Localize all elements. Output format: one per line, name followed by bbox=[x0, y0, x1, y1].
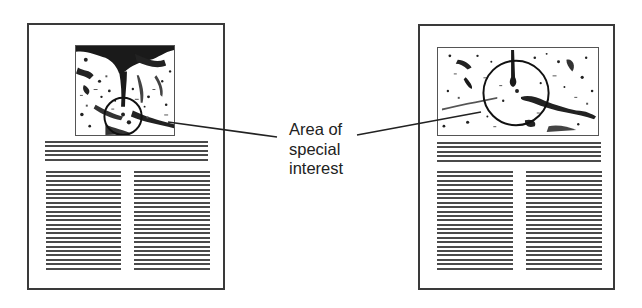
right-page-column-2 bbox=[526, 171, 602, 272]
right-page-photo bbox=[437, 47, 599, 136]
callout-label-line-1: Area of bbox=[289, 120, 343, 140]
micrograph-texture bbox=[76, 46, 174, 135]
left-page-column-1 bbox=[46, 171, 121, 272]
callout-label: Area of special interest bbox=[289, 120, 343, 179]
callout-label-line-2: special bbox=[289, 140, 343, 160]
left-page-photo bbox=[75, 45, 175, 136]
left-page-column-2 bbox=[134, 171, 210, 272]
left-page-headline-rules bbox=[45, 141, 208, 163]
callout-label-line-3: interest bbox=[289, 159, 343, 179]
right-page-column-1 bbox=[437, 171, 513, 272]
right-page-headline-rules bbox=[437, 142, 601, 164]
micrograph-texture bbox=[438, 48, 598, 135]
